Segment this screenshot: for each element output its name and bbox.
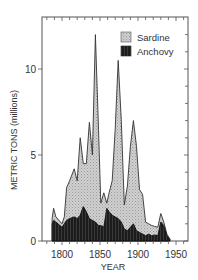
y-axis-title: METRIC TONS (millions) — [9, 90, 19, 190]
x-tick-label-1800: 1800 — [51, 249, 74, 260]
x-axis-title: YEAR — [101, 262, 126, 272]
x-tick-label-1900: 1900 — [127, 249, 150, 260]
legend-swatch-anchovy — [121, 46, 131, 56]
x-tick-label-1950: 1950 — [165, 249, 188, 260]
y-tick-label-10: 10 — [25, 64, 37, 75]
legend-swatch-sardine — [121, 32, 131, 42]
legend: Sardine Anchovy — [121, 32, 174, 57]
x-tick-label-1850: 1850 — [89, 249, 112, 260]
sardine-anchovy-area-chart: 0 5 10 1800 1850 1900 1950 YEAR METRIC T… — [0, 0, 198, 280]
y-tick-label-0: 0 — [30, 236, 36, 247]
y-tick-label-5: 5 — [30, 150, 36, 161]
sardine-area-path — [52, 35, 170, 241]
sardine-area — [52, 35, 170, 241]
legend-label-sardine: Sardine — [137, 32, 170, 43]
chart-container: 0 5 10 1800 1850 1900 1950 YEAR METRIC T… — [0, 0, 198, 280]
legend-label-anchovy: Anchovy — [137, 46, 174, 57]
